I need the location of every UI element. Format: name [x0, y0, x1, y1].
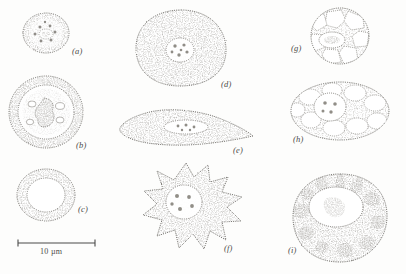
cell-drawings-svg	[0, 0, 406, 274]
panel-label-a: (a)	[72, 46, 83, 56]
panel-e-drawing	[120, 110, 253, 145]
figure-plate: (a) (b) (c) (d) (e) (f) (g) (h) (i) 10 µ…	[0, 0, 406, 274]
panel-label-b: (b)	[76, 140, 87, 150]
scale-bar	[18, 240, 95, 247]
scale-bar-label: 10 µm	[40, 247, 62, 256]
panel-label-i: (i)	[288, 245, 297, 255]
panel-g-drawing	[309, 8, 369, 64]
panel-label-d: (d)	[221, 79, 232, 89]
panel-a-drawing	[23, 13, 69, 53]
panel-label-c: (c)	[78, 204, 88, 214]
panel-label-h: (h)	[293, 134, 304, 144]
panel-f-drawing	[143, 163, 242, 249]
panel-c-drawing	[17, 169, 75, 221]
panel-b-drawing	[9, 76, 83, 148]
panel-label-g: (g)	[291, 43, 302, 53]
panel-d-drawing	[136, 10, 226, 86]
panel-h-drawing	[289, 82, 389, 140]
panel-label-e: (e)	[233, 145, 243, 155]
panel-label-f: (f)	[224, 243, 233, 253]
panel-i-drawing	[293, 174, 387, 262]
